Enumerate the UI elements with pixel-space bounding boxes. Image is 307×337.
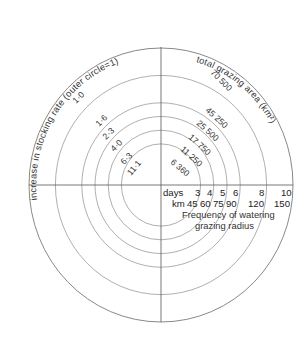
days-6: 6 (233, 187, 238, 198)
days-8: 8 (259, 187, 264, 198)
km-45: 45 (187, 198, 198, 209)
stocking-label-1-6: 1·6 (93, 112, 109, 128)
caption-frequency: Frequency of watering (182, 209, 275, 220)
caption-radius: grazing radius (195, 220, 254, 231)
days-row-label: days (163, 187, 183, 198)
stocking-rate-labels: 1·0 1·6 2·3 4·0 6·3 11·1 (70, 89, 143, 177)
km-row-label: km (172, 198, 185, 209)
days-4: 4 (207, 187, 213, 198)
stocking-label-4-0: 4·0 (108, 137, 124, 153)
km-150: 150 (274, 198, 290, 209)
stocking-label-2-3: 2·3 (100, 125, 116, 141)
km-90: 90 (226, 198, 237, 209)
km-120: 120 (248, 198, 264, 209)
concentric-grazing-diagram: increase in stocking rate (outer circle=… (0, 0, 307, 337)
days-3: 3 (195, 187, 200, 198)
days-10: 10 (281, 187, 292, 198)
km-60: 60 (200, 198, 211, 209)
radius-scale: days km 3 4 5 6 8 10 45 60 75 90 120 150 (163, 187, 292, 209)
days-5: 5 (220, 187, 225, 198)
km-75: 75 (213, 198, 224, 209)
